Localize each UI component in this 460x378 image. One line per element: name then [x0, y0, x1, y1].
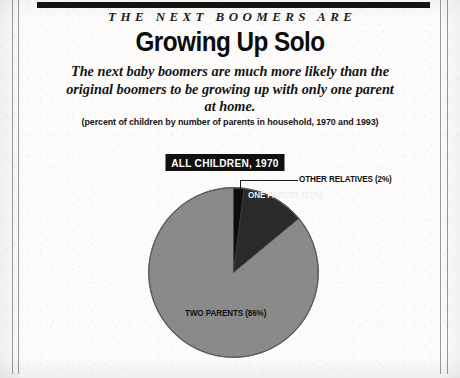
callout-leader-vertical: [240, 180, 241, 191]
scanned-page: THE NEXT BOOMERS ARE Growing Up Solo The…: [0, 0, 460, 378]
slice-label-two-parents: TWO PARENTS (86%): [185, 308, 266, 318]
slice-label-other-relatives: OTHER RELATIVES (2%): [299, 174, 392, 184]
slice-label-one-parent: ONE PARENT (12%): [248, 190, 323, 200]
chart-title-banner: ALL CHILDREN, 1970: [165, 154, 284, 171]
pie-graphic: [148, 187, 320, 362]
pie-svg: [148, 187, 320, 362]
callout-leader-horizontal: [240, 180, 298, 181]
pie-chart-figure: ALL CHILDREN, 1970 OTHER RELATIVES (2%) …: [0, 0, 460, 378]
